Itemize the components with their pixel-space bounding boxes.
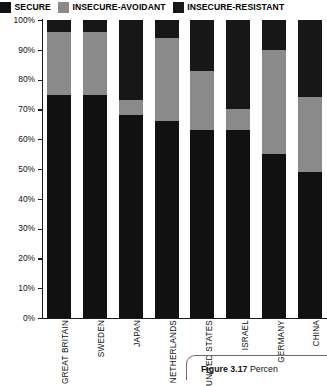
bar-japan [119, 20, 143, 318]
bar-china [298, 20, 322, 318]
y-axis-tick-mark [38, 318, 43, 319]
y-axis-tick-label: 80% [0, 75, 35, 83]
figure-caption-box: Figure 3.17 Percen [186, 355, 327, 380]
y-axis-tick-mark [38, 109, 43, 110]
x-axis-label-wrap: JAPAN [134, 320, 144, 380]
bar-segment-secure [298, 172, 322, 318]
bar-segment-secure [119, 115, 143, 318]
x-axis-label-wrap: SWEDEN [98, 320, 108, 380]
legend-item-label: SECURE [15, 3, 51, 12]
legend-item-label: INSECURE-RESISTANT [187, 3, 284, 12]
chart-legend: SECUREINSECURE-AVOIDANTINSECURE-RESISTAN… [0, 0, 327, 14]
bar-segment-insecure-resistant [83, 20, 107, 32]
bar-segment-insecure-avoidant [155, 38, 179, 121]
y-axis-tick-label: 30% [0, 224, 35, 232]
bar-segment-insecure-avoidant [190, 71, 214, 131]
legend-item: INSECURE-RESISTANT [173, 2, 292, 13]
chart-plot-area: 100%90%80%70%60%50%40%30%20%10%0% [0, 14, 327, 324]
y-axis-tick-mark [38, 139, 43, 140]
bar-segment-insecure-avoidant [262, 50, 286, 154]
y-axis-tick-label: 50% [0, 165, 35, 173]
legend-swatch-insecure-avoidant [58, 2, 69, 13]
y-axis-tick-label: 10% [0, 284, 35, 292]
y-axis-tick-mark [38, 229, 43, 230]
bar-germany [262, 20, 286, 318]
y-axis-tick-label: 100% [0, 16, 35, 24]
bar-segment-insecure-resistant [119, 20, 143, 100]
y-axis-tick-label: 20% [0, 254, 35, 262]
bar-segment-insecure-avoidant [119, 100, 143, 115]
y-axis-tick-mark [38, 288, 43, 289]
y-axis-tick-label: 40% [0, 195, 35, 203]
y-axis-tick-mark [38, 169, 43, 170]
bar-segment-secure [226, 130, 250, 318]
y-axis-tick-mark [38, 80, 43, 81]
legend-item: INSECURE-AVOIDANT [58, 2, 173, 13]
y-axis-tick-mark [38, 199, 43, 200]
y-axis-tick-label: 60% [0, 135, 35, 143]
bar-united-states [190, 20, 214, 318]
x-axis-label: SWEDEN [98, 320, 106, 357]
legend-item: SECURE [0, 2, 58, 13]
x-axis-label: NETHERLANDS [170, 320, 178, 383]
y-axis-tick-label: 70% [0, 105, 35, 113]
figure-number: Figure 3.17 [201, 364, 247, 374]
bar-great-britain [47, 20, 71, 318]
bar-netherlands [155, 20, 179, 318]
legend-item-label: INSECURE-AVOIDANT [72, 3, 165, 12]
bar-segment-secure [83, 95, 107, 319]
bar-segment-insecure-resistant [47, 20, 71, 32]
x-axis-label: CHINA [313, 320, 321, 346]
bar-segment-secure [155, 121, 179, 318]
bar-segment-secure [262, 154, 286, 318]
bar-segment-insecure-avoidant [83, 32, 107, 95]
bar-segment-insecure-avoidant [298, 97, 322, 172]
legend-swatch-secure [0, 2, 11, 13]
bar-segment-insecure-resistant [262, 20, 286, 50]
y-axis-tick-mark [38, 20, 43, 21]
x-axis-label-wrap: NETHERLANDS [170, 320, 180, 380]
x-axis-label-wrap: GREAT BRITAIN [62, 320, 72, 380]
bar-segment-insecure-resistant [155, 20, 179, 38]
figure-caption-body: Percen [250, 364, 278, 374]
x-axis-label: GREAT BRITAIN [62, 320, 70, 384]
bar-segment-secure [47, 95, 71, 319]
x-axis-label: ISRAEL [242, 320, 250, 350]
y-axis-tick-mark [38, 258, 43, 259]
bar-sweden [83, 20, 107, 318]
bar-segment-insecure-avoidant [47, 32, 71, 95]
bar-segment-insecure-resistant [190, 20, 214, 71]
x-axis-label: JAPAN [134, 320, 142, 347]
legend-swatch-insecure-resistant [173, 2, 184, 13]
bar-segment-insecure-resistant [226, 20, 250, 109]
figure-caption-text: Figure 3.17 Percen [201, 364, 278, 375]
bar-segment-insecure-resistant [298, 20, 322, 97]
y-axis-tick-label: 90% [0, 46, 35, 54]
bar-israel [226, 20, 250, 318]
bar-segment-secure [190, 130, 214, 318]
y-axis-tick-mark [38, 50, 43, 51]
bar-segment-insecure-avoidant [226, 109, 250, 130]
